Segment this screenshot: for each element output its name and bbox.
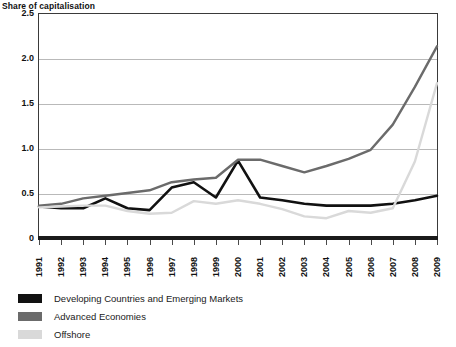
x-tick xyxy=(393,240,394,245)
x-tick xyxy=(127,240,128,245)
y-tick-label: 0.5 xyxy=(0,188,34,198)
x-tick-label: 2005 xyxy=(344,250,354,284)
x-tick xyxy=(437,240,438,245)
x-tick xyxy=(238,240,239,245)
x-tick-label: 1993 xyxy=(78,250,88,284)
x-tick-label: 2000 xyxy=(233,250,243,284)
x-tick-label: 2004 xyxy=(321,250,331,284)
legend-swatch xyxy=(18,294,42,303)
y-tick-label: 0 xyxy=(0,233,34,243)
x-tick xyxy=(371,240,372,245)
x-tick-label: 2007 xyxy=(388,250,398,284)
x-axis-ticks xyxy=(38,240,438,246)
x-tick xyxy=(304,240,305,245)
legend-label: Offshore xyxy=(54,329,90,340)
y-tick-label: 2.5 xyxy=(0,8,34,18)
x-tick-label: 1998 xyxy=(189,250,199,284)
legend-item: Advanced Economies xyxy=(18,307,448,325)
series-layer xyxy=(38,13,438,238)
chart-legend: Developing Countries and Emerging Market… xyxy=(18,289,448,343)
legend-label: Advanced Economies xyxy=(54,311,146,322)
chart-figure: Share of capitalisation 00.51.01.52.02.5… xyxy=(0,0,456,347)
x-tick-label: 2006 xyxy=(366,250,376,284)
x-tick xyxy=(105,240,106,245)
x-tick xyxy=(326,240,327,245)
legend-item: Offshore xyxy=(18,325,448,343)
legend-swatch xyxy=(18,312,42,321)
x-tick-label: 1996 xyxy=(145,250,155,284)
y-tick-label: 1.5 xyxy=(0,98,34,108)
y-tick-label: 2.0 xyxy=(0,53,34,63)
x-tick xyxy=(150,240,151,245)
series-line xyxy=(39,46,437,205)
x-tick-label: 2009 xyxy=(432,250,442,284)
x-tick xyxy=(172,240,173,245)
y-tick-label: 1.0 xyxy=(0,143,34,153)
x-tick xyxy=(216,240,217,245)
x-tick xyxy=(282,240,283,245)
x-tick xyxy=(39,240,40,245)
x-tick xyxy=(349,240,350,245)
x-tick-label: 1991 xyxy=(34,250,44,284)
x-tick-label: 2008 xyxy=(410,250,420,284)
x-tick-label: 1997 xyxy=(167,250,177,284)
x-tick-label: 1992 xyxy=(56,250,66,284)
legend-item: Developing Countries and Emerging Market… xyxy=(18,289,448,307)
x-tick xyxy=(415,240,416,245)
x-tick-label: 2001 xyxy=(255,250,265,284)
x-tick-label: 1995 xyxy=(122,250,132,284)
x-tick-label: 1999 xyxy=(211,250,221,284)
x-tick xyxy=(260,240,261,245)
series-line xyxy=(39,161,437,211)
x-tick-label: 2003 xyxy=(299,250,309,284)
x-tick xyxy=(61,240,62,245)
x-tick xyxy=(83,240,84,245)
x-axis-tick-labels: 1991199219931994199519961997199819992000… xyxy=(38,246,438,286)
legend-swatch xyxy=(18,330,42,339)
x-tick xyxy=(194,240,195,245)
y-axis-tick-labels: 00.51.01.52.02.5 xyxy=(0,0,34,260)
x-tick-label: 1994 xyxy=(100,250,110,284)
legend-label: Developing Countries and Emerging Market… xyxy=(54,293,243,304)
x-tick-label: 2002 xyxy=(277,250,287,284)
series-line xyxy=(39,83,437,218)
